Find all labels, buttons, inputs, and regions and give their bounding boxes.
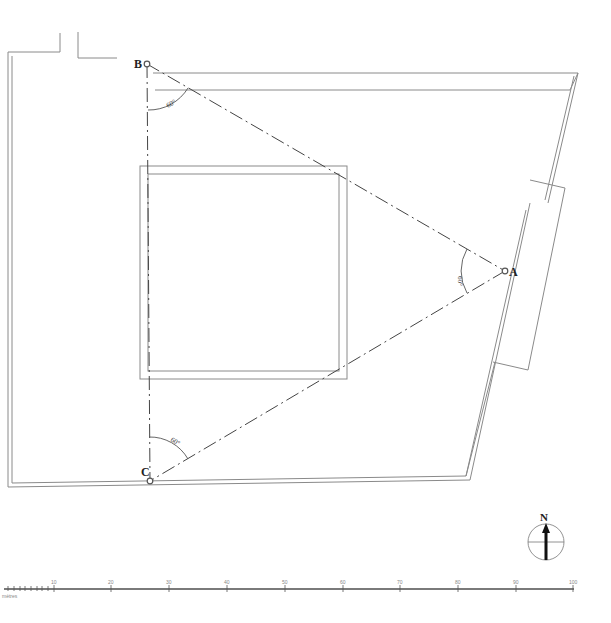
scale-tick-10: 10 xyxy=(51,579,57,585)
north-arrow-icon xyxy=(545,530,548,560)
angle-arcs: 60° 60° 60° xyxy=(148,88,467,459)
scale-tick-80: 80 xyxy=(455,579,461,585)
angle-label-a: 60° xyxy=(456,276,464,286)
scale-tick-50: 50 xyxy=(282,579,288,585)
point-c-label: C xyxy=(141,465,150,479)
scale-tick-70: 70 xyxy=(397,579,403,585)
site-boundary xyxy=(8,32,578,487)
scale-tick-40: 40 xyxy=(224,579,230,585)
survey-points: B A C xyxy=(134,57,518,484)
point-a-marker xyxy=(502,268,508,274)
point-b-label: B xyxy=(134,57,142,71)
point-c-marker xyxy=(147,478,153,484)
scale-bar: 10 20 30 40 50 60 70 80 90 100 mètres xyxy=(2,579,578,599)
scale-tick-100: 100 xyxy=(569,579,578,585)
scale-unit-label: mètres xyxy=(2,593,18,599)
angle-label-b: 60° xyxy=(165,98,178,110)
triangulation-lines xyxy=(147,64,505,481)
central-square xyxy=(140,166,347,379)
scale-tick-60: 60 xyxy=(340,579,346,585)
point-b-marker xyxy=(144,61,150,67)
site-plan-drawing: 60° 60° 60° B A C N 10 xyxy=(0,0,611,623)
scale-tick-90: 90 xyxy=(513,579,519,585)
compass-north-label: N xyxy=(540,511,548,523)
point-a-label: A xyxy=(509,265,518,279)
north-compass: N xyxy=(528,511,564,560)
angle-label-c: 60° xyxy=(169,436,182,448)
scale-tick-20: 20 xyxy=(108,579,114,585)
scale-tick-30: 30 xyxy=(166,579,172,585)
